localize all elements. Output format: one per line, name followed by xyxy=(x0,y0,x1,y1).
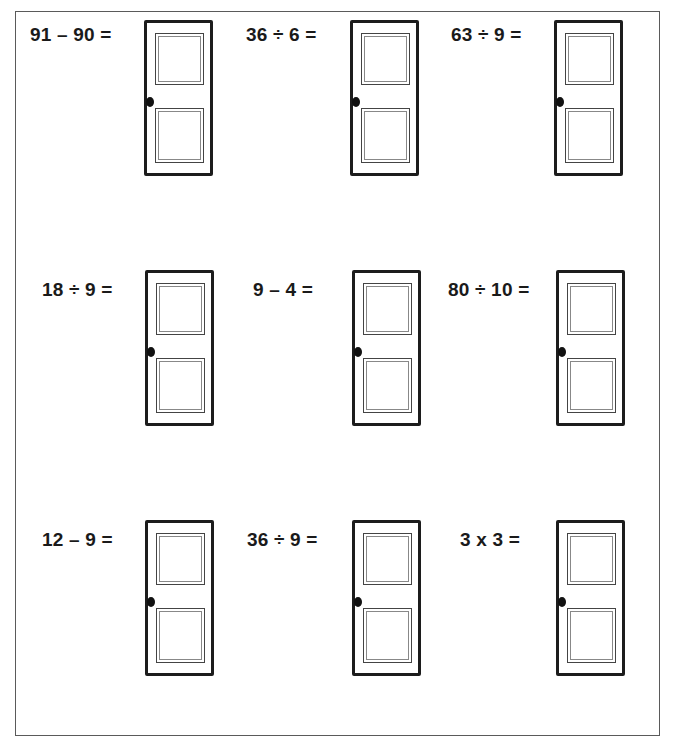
door-panel-top xyxy=(567,533,616,585)
door-knob-icon xyxy=(556,97,564,107)
door-panel-bottom xyxy=(567,358,616,413)
door-knob-icon xyxy=(147,597,155,607)
problem-expression: 91 – 90 = xyxy=(30,24,112,46)
problem-expression: 3 x 3 = xyxy=(460,529,520,551)
door-panel-top xyxy=(156,283,205,335)
door-panel-top xyxy=(363,283,412,335)
door-knob-icon xyxy=(146,97,154,107)
problem-expression: 18 ÷ 9 = xyxy=(42,279,113,301)
door-panel-bottom xyxy=(363,608,412,663)
door-panel-bottom xyxy=(567,608,616,663)
door-knob-icon xyxy=(558,347,566,357)
door-panel-top xyxy=(565,33,614,85)
answer-door[interactable] xyxy=(352,520,421,676)
door-panel-bottom xyxy=(156,608,205,663)
problem-expression: 36 ÷ 6 = xyxy=(246,24,317,46)
answer-door[interactable] xyxy=(145,270,214,426)
door-panel-bottom xyxy=(565,108,614,163)
door-knob-icon xyxy=(558,597,566,607)
door-panel-top xyxy=(155,33,204,85)
door-panel-bottom xyxy=(156,358,205,413)
answer-door[interactable] xyxy=(352,270,421,426)
door-panel-top xyxy=(363,533,412,585)
problem-expression: 36 ÷ 9 = xyxy=(247,529,318,551)
door-panel-top xyxy=(567,283,616,335)
door-knob-icon xyxy=(354,597,362,607)
door-panel-bottom xyxy=(361,108,410,163)
answer-door[interactable] xyxy=(144,20,213,176)
answer-door[interactable] xyxy=(556,270,625,426)
problem-expression: 12 – 9 = xyxy=(42,529,113,551)
door-knob-icon xyxy=(352,97,360,107)
answer-door[interactable] xyxy=(554,20,623,176)
door-panel-bottom xyxy=(155,108,204,163)
answer-door[interactable] xyxy=(350,20,419,176)
door-panel-top xyxy=(361,33,410,85)
answer-door[interactable] xyxy=(145,520,214,676)
problem-expression: 9 – 4 = xyxy=(253,279,313,301)
problem-expression: 80 ÷ 10 = xyxy=(448,279,529,301)
door-panel-top xyxy=(156,533,205,585)
problem-expression: 63 ÷ 9 = xyxy=(451,24,522,46)
door-knob-icon xyxy=(354,347,362,357)
answer-door[interactable] xyxy=(556,520,625,676)
door-panel-bottom xyxy=(363,358,412,413)
door-knob-icon xyxy=(147,347,155,357)
